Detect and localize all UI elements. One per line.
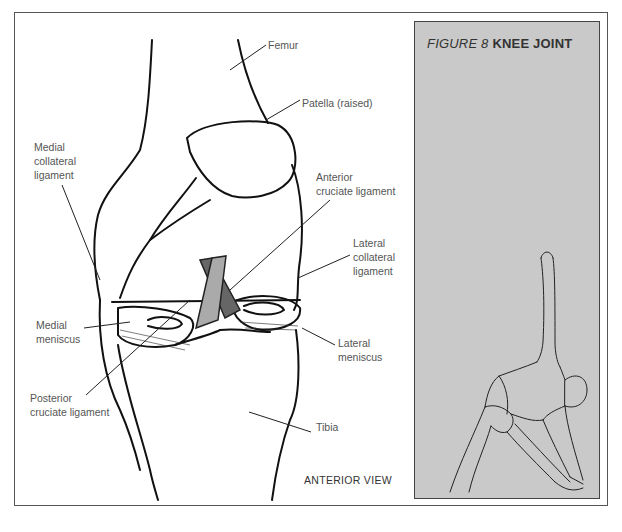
view-label: ANTERIOR VIEW: [304, 474, 392, 486]
label-medial-meniscus: Medial meniscus: [36, 318, 80, 346]
label-tibia: Tibia: [316, 420, 338, 434]
label-medial-collateral-ligament: Medial collateral ligament: [34, 140, 76, 182]
figure-panel: FIGURE 8 KNEE JOINT: [414, 21, 600, 499]
label-lateral-meniscus: Lateral meniscus: [338, 336, 382, 364]
label-anterior-cruciate-ligament: Anterior cruciate ligament: [316, 170, 395, 198]
triangle-pose-illustration: [415, 22, 601, 500]
label-posterior-cruciate-ligament: Posterior cruciate ligament: [30, 391, 109, 419]
label-lateral-collateral-ligament: Lateral collateral ligament: [353, 236, 395, 278]
label-femur: Femur: [268, 38, 298, 52]
label-patella: Patella (raised): [302, 96, 373, 110]
